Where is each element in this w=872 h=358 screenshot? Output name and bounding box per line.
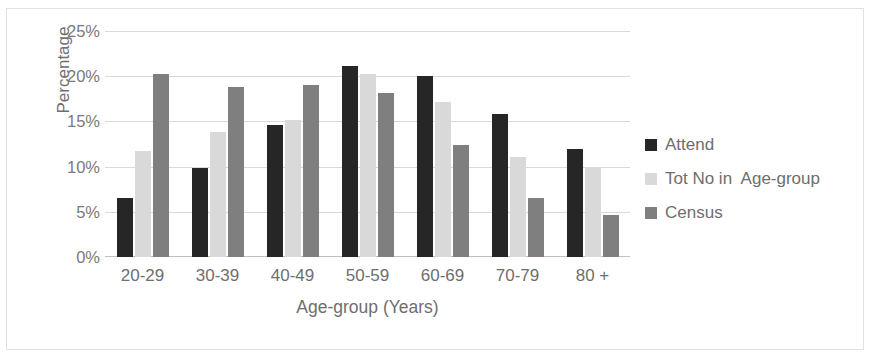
bar xyxy=(453,145,469,257)
bar xyxy=(585,168,601,257)
bar xyxy=(228,87,244,257)
bar xyxy=(567,149,583,257)
bar-group xyxy=(567,31,619,257)
legend-swatch-icon xyxy=(645,173,657,185)
legend-label: Attend xyxy=(665,135,714,155)
plot-area xyxy=(105,31,630,257)
bar-group xyxy=(117,31,169,257)
x-axis-tick-label: 70-79 xyxy=(496,266,539,286)
bar xyxy=(417,76,433,257)
x-axis-tick-label: 50-59 xyxy=(346,266,389,286)
bar-group xyxy=(267,31,319,257)
legend: AttendTot No in Age-groupCensus xyxy=(645,128,820,230)
y-axis-tick-label: 15% xyxy=(52,113,100,130)
legend-entry: Attend xyxy=(645,128,820,162)
y-axis-tick-label: 25% xyxy=(52,23,100,40)
legend-label: Census xyxy=(665,203,723,223)
bar xyxy=(360,74,376,258)
bar xyxy=(435,102,451,257)
bar xyxy=(342,66,358,257)
bar xyxy=(285,120,301,257)
bar xyxy=(492,114,508,257)
y-axis-tick-label: 20% xyxy=(52,68,100,85)
bar xyxy=(192,168,208,257)
bar xyxy=(378,93,394,257)
x-axis-title: Age-group (Years) xyxy=(105,297,630,318)
bar-group xyxy=(417,31,469,257)
bar-group xyxy=(342,31,394,257)
bar xyxy=(135,151,151,257)
y-axis-tick-label: 5% xyxy=(52,204,100,221)
bar-chart: Percentage 0%5%10%15%20%25% 20-2930-3940… xyxy=(0,0,872,358)
bar xyxy=(267,125,283,257)
bar xyxy=(303,85,319,257)
bar xyxy=(528,198,544,257)
x-axis-tick-label: 40-49 xyxy=(271,266,314,286)
bar-group xyxy=(492,31,544,257)
legend-swatch-icon xyxy=(645,139,657,151)
x-axis-tick-label: 60-69 xyxy=(421,266,464,286)
bar xyxy=(510,157,526,257)
bar-group xyxy=(192,31,244,257)
x-axis-tick-label: 20-29 xyxy=(121,266,164,286)
x-axis-tick-label: 80 + xyxy=(576,266,610,286)
y-axis-tick-label: 0% xyxy=(52,249,100,266)
bar xyxy=(603,215,619,257)
legend-entry: Tot No in Age-group xyxy=(645,162,820,196)
legend-label: Tot No in Age-group xyxy=(665,169,820,189)
x-axis-tick-label: 30-39 xyxy=(196,266,239,286)
y-axis-tick-label: 10% xyxy=(52,158,100,175)
y-axis-tick-labels: 0%5%10%15%20%25% xyxy=(52,0,100,358)
legend-entry: Census xyxy=(645,196,820,230)
bar xyxy=(210,132,226,257)
legend-swatch-icon xyxy=(645,207,657,219)
bar xyxy=(153,74,169,257)
bar xyxy=(117,198,133,257)
